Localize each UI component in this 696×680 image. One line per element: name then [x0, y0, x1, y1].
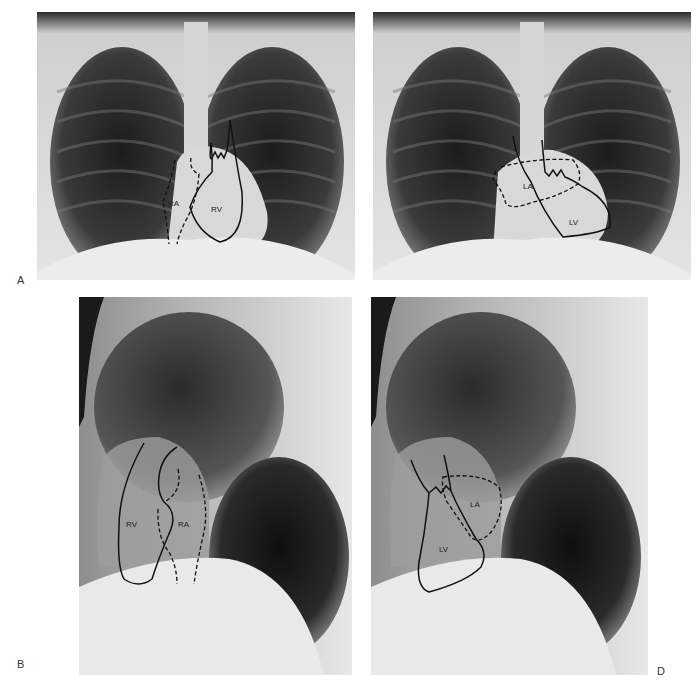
lateral-xray-image: RV RA: [79, 297, 352, 675]
label-lv: LV: [439, 545, 449, 554]
label-lv: LV: [569, 218, 579, 227]
frontal-xray-image: LA LV: [373, 12, 691, 280]
frontal-xray-image: RA RV: [37, 12, 355, 280]
panel-a-frontal-xray: RA RV: [37, 12, 355, 280]
panel-b-lateral-xray: RV RA: [79, 297, 352, 675]
panel-letter-a: A: [17, 274, 24, 286]
label-la: LA: [523, 182, 533, 191]
panel-d-lateral-xray: LA LV: [371, 297, 648, 675]
lateral-xray-image: LA LV: [371, 297, 648, 675]
label-rv: RV: [126, 520, 138, 529]
panel-letter-b: B: [17, 658, 24, 670]
label-rv: RV: [211, 205, 223, 214]
panel-c-frontal-xray: LA LV: [373, 12, 691, 280]
label-ra: RA: [168, 199, 180, 208]
panel-letter-d: D: [657, 665, 665, 677]
label-la: LA: [470, 500, 480, 509]
label-ra: RA: [178, 520, 190, 529]
